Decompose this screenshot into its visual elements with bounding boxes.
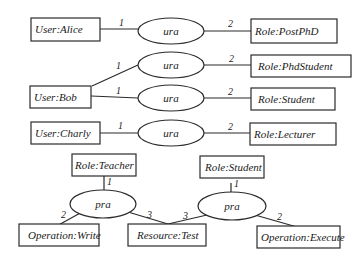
edge-pra-execute <box>255 215 297 227</box>
ura-label-2: ura <box>163 59 179 71</box>
user-bob-label: User:Bob <box>34 91 77 103</box>
role-postphd-node[interactable]: Role:PostPhD <box>251 19 337 43</box>
mult-ura-postphd: 2 <box>228 18 233 29</box>
ura-label-3: ura <box>163 92 179 104</box>
role-phdstudent-node[interactable]: Role:PhdStudent <box>251 55 351 77</box>
edge-bob-ura-1 <box>92 65 138 86</box>
operation-execute-node[interactable]: Operation:Execute <box>257 226 345 248</box>
role-student2-node[interactable]: Role:Student <box>200 156 264 178</box>
mult-ura-student: 2 <box>228 86 233 97</box>
user-charly-label: User:Charly <box>35 127 91 139</box>
role-teacher-label: Role:Teacher <box>74 159 135 171</box>
user-charly-node[interactable]: User:Charly <box>31 122 100 144</box>
ura-ellipse-1[interactable]: ura <box>138 18 204 44</box>
mult-alice-ura: 1 <box>119 17 124 28</box>
role-student-label: Role:Student <box>257 93 316 105</box>
user-alice-node[interactable]: User:Alice <box>31 18 100 41</box>
mult-pra-test-right: 3 <box>182 210 188 221</box>
mult-ura-phdstudent: 2 <box>229 53 234 64</box>
ura-ellipse-3[interactable]: ura <box>138 85 204 111</box>
role-lecturer-node[interactable]: Role:Lecturer <box>250 123 336 145</box>
edge-bob-ura-2 <box>91 96 138 98</box>
pra-ellipse-student[interactable]: pra <box>198 192 266 220</box>
operation-write-node[interactable]: Operation:Write <box>19 224 101 246</box>
mult-teacher-pra: 1 <box>107 176 112 187</box>
pra-label-teacher: pra <box>94 198 111 210</box>
pra-label-student: pra <box>223 200 240 212</box>
resource-test-node[interactable]: Resource:Test <box>128 224 206 246</box>
operation-write-label: Operation:Write <box>28 229 101 241</box>
ura-label-4: ura <box>163 127 179 139</box>
user-alice-label: User:Alice <box>35 23 83 35</box>
role-postphd-label: Role:PostPhD <box>254 25 319 37</box>
mult-charly-ura: 1 <box>118 120 123 131</box>
role-student2-label: Role:Student <box>204 161 263 173</box>
role-student-node[interactable]: Role:Student <box>251 88 335 110</box>
role-teacher-node[interactable]: Role:Teacher <box>72 154 136 176</box>
pra-ellipse-teacher[interactable]: pra <box>70 190 136 218</box>
mult-student2-pra: 1 <box>234 178 239 189</box>
ura-ellipse-2[interactable]: ura <box>138 52 204 78</box>
role-lecturer-label: Role:Lecturer <box>253 128 316 140</box>
mult-ura-lecturer: 2 <box>228 121 233 132</box>
resource-test-label: Resource:Test <box>136 229 199 241</box>
user-bob-node[interactable]: User:Bob <box>30 86 91 108</box>
role-phdstudent-label: Role:PhdStudent <box>257 60 333 72</box>
ura-label-1: ura <box>163 25 179 37</box>
operation-execute-label: Operation:Execute <box>261 231 345 243</box>
rbac-diagram: 1 2 1 2 1 2 1 2 1 2 3 1 3 2 User:Alice U… <box>0 0 358 263</box>
mult-pra-test-left: 3 <box>146 209 152 220</box>
mult-pra-write: 2 <box>61 209 66 220</box>
mult-pra-execute: 2 <box>277 211 282 222</box>
ura-ellipse-4[interactable]: ura <box>138 120 204 146</box>
mult-bob-ura-2: 1 <box>116 85 121 96</box>
mult-bob-ura-1: 1 <box>116 60 121 71</box>
